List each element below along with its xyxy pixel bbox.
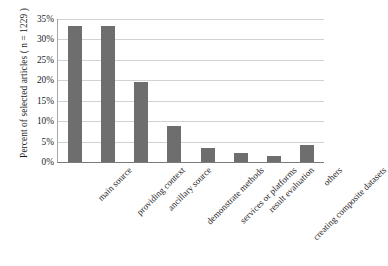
y-axis-tick-label: 25% [24,55,54,65]
bar-slot [58,19,91,162]
bar [201,148,215,162]
bar-slot [224,19,257,162]
y-axis-tick-labels: 35%30%25%20%15%10%5%0% [24,12,54,168]
x-axis-category-labels: main sourceproviding contextancillary so… [57,163,323,263]
y-axis-tick-label: 15% [24,96,54,106]
y-axis-tick-label: 30% [24,34,54,44]
x-axis-tick-label: creating composite datasets [311,165,388,242]
x-axis-tick-label: others [322,165,345,188]
bar-slot [258,19,291,162]
plot-area [57,19,324,163]
y-axis-tick-label: 10% [24,116,54,126]
y-axis-tick-label: 20% [24,75,54,85]
bar-slot [125,19,158,162]
bars-layer [58,19,324,162]
bar [101,26,115,162]
bar-slot [158,19,191,162]
bar [234,153,248,162]
bar [134,82,148,162]
x-axis-tick-label: demonstrate methods [205,165,266,226]
bar-slot [91,19,124,162]
y-axis-tick-label: 35% [24,14,54,24]
y-axis-tick-label: 5% [24,137,54,147]
bar [300,145,314,162]
x-axis-tick-label: main source [95,165,133,203]
bar [167,126,181,162]
bar [68,26,82,162]
bar-slot [191,19,224,162]
y-axis-tick-label: 0% [24,157,54,167]
bar-slot [291,19,324,162]
bar [267,156,281,162]
